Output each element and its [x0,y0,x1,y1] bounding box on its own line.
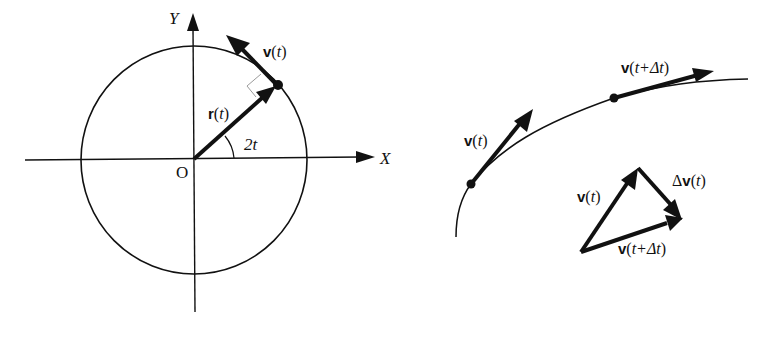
y-axis [193,28,195,312]
curve-velocity-vector-2 [614,75,698,98]
figure-canvas: Y X O 2t r(t) v(t) v(t) v(t+Δt) v(t) v(t… [0,0,766,340]
particle-point [273,80,283,90]
angle-label: 2t [244,136,257,153]
circle-diagram [25,13,375,312]
x-axis-arrowhead [356,151,375,163]
velocity-vector-label: v(t) [263,44,286,60]
position-vector-label: r(t) [208,106,229,122]
vector-symbol: v [682,172,690,189]
vector-symbol: v [263,43,271,60]
vector-arg: t [591,188,595,205]
trajectory-curve [456,79,748,237]
curve-point-2 [610,94,619,103]
vector-symbol: v [621,59,629,76]
vector-arg: t [478,132,482,149]
origin-label: O [176,164,188,181]
triangle-label-v-t-dt: v(t+Δt) [618,241,666,257]
diagram-svg [0,0,766,340]
vector-symbol: v [464,132,472,149]
vector-arg: t+Δt [635,59,664,76]
vector-symbol: v [577,188,585,205]
vector-arg: t+Δt [632,240,661,257]
y-axis-arrowhead [187,13,199,31]
curve-velocity-vector-1 [471,121,522,184]
vector-symbol: v [618,240,626,257]
vector-symbol: r [208,105,214,122]
triangle-label-v-t: v(t) [577,189,600,205]
x-axis-label: X [380,150,390,167]
curve-velocity-label-1: v(t) [464,133,487,149]
y-axis-label: Y [169,10,178,27]
triangle-label-delta-v: Δv(t) [672,173,706,189]
vector-arg: t [219,105,223,122]
delta-symbol: Δ [672,172,682,189]
curve-point-1 [467,180,476,189]
curve-velocity-arrowhead-2 [692,68,714,82]
trajectory-diagram [456,68,748,252]
vector-arg: t [696,172,700,189]
angle-arc [225,136,234,158]
vector-arg: t [277,43,281,60]
x-axis [25,157,360,160]
triangle-side-delta-v [638,168,672,206]
curve-velocity-label-2: v(t+Δt) [621,60,669,76]
